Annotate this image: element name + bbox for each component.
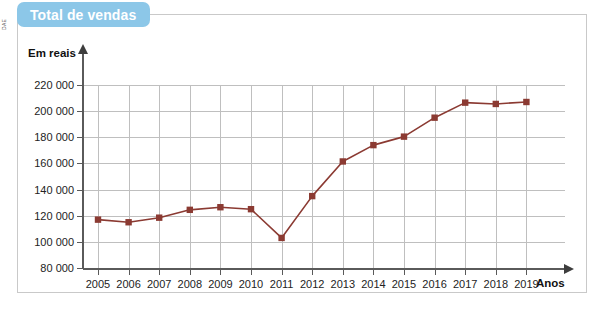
x-axis-tick [129, 269, 130, 275]
y-axis-tick-label: 140 000 [34, 184, 74, 196]
chart-title-banner: Total de vendas [17, 2, 150, 27]
y-axis-tick [77, 190, 84, 191]
y-axis-tick-label: 80 000 [40, 262, 74, 274]
x-axis-tick-label: 2019 [506, 278, 546, 290]
y-axis-tick-label: 180 000 [34, 131, 74, 143]
x-axis-tick [159, 269, 160, 275]
y-axis-tick-label-wrap: 200 000 [0, 105, 74, 117]
x-axis-tick [343, 269, 344, 275]
x-axis-tick [190, 269, 191, 275]
data-point-marker: 2014: 174000 [370, 142, 376, 148]
x-axis-tick [98, 269, 99, 275]
x-axis-tick [496, 269, 497, 275]
bottom-cropped-text [17, 300, 587, 309]
y-axis-tick [77, 216, 84, 217]
data-point-marker: 2006: 115000 [125, 219, 131, 225]
y-axis-tick-label-wrap: 160 000 [0, 157, 74, 169]
y-axis-tick-label: 160 000 [34, 157, 74, 169]
y-axis-tick [77, 85, 84, 86]
x-axis-tick [312, 269, 313, 275]
series-markers: 2005: 1170002006: 1150002007: 1185002008… [95, 99, 530, 241]
data-point-marker: 2011: 103000 [278, 235, 284, 241]
y-axis-tick-label-wrap: 100 000 [0, 236, 74, 248]
y-axis-tick-label: 220 000 [34, 79, 74, 91]
x-axis-tick [435, 269, 436, 275]
y-axis-tick-label-wrap: 80 000 [0, 262, 74, 274]
data-point-marker: 2016: 195000 [431, 114, 437, 120]
data-point-marker: 2019: 207000 [523, 99, 529, 105]
y-axis-tick [77, 268, 84, 269]
y-axis-tick-label-wrap: 220 000 [0, 79, 74, 91]
chart-figure: DAE Total de vendas Em reais Anos 2005: … [0, 0, 594, 309]
y-axis-tick-label-wrap: 120 000 [0, 210, 74, 222]
y-axis-tick-label: 100 000 [34, 236, 74, 248]
x-axis-tick [404, 269, 405, 275]
data-point-marker: 2018: 205500 [493, 101, 499, 107]
data-point-marker: 2005: 117000 [95, 216, 101, 222]
x-axis-tick [373, 269, 374, 275]
y-axis-tick-label: 200 000 [34, 105, 74, 117]
data-point-marker: 2009: 126500 [217, 204, 223, 210]
data-point-marker: 2008: 124500 [187, 207, 193, 213]
y-axis-tick-label-wrap: 180 000 [0, 131, 74, 143]
data-point-marker: 2012: 135000 [309, 193, 315, 199]
y-axis-tick [77, 137, 84, 138]
data-point-marker: 2017: 206500 [462, 99, 468, 105]
x-axis-tick [251, 269, 252, 275]
x-axis-tick [220, 269, 221, 275]
data-point-marker: 2013: 161500 [340, 158, 346, 164]
y-axis-tick-label-wrap: 140 000 [0, 184, 74, 196]
data-point-marker: 2010: 125000 [248, 206, 254, 212]
data-point-marker: 2015: 180500 [401, 133, 407, 139]
x-axis-tick [526, 269, 527, 275]
x-axis-tick [282, 269, 283, 275]
series-layer: 2005: 1170002006: 1150002007: 1185002008… [0, 0, 594, 309]
y-axis-tick-label: 120 000 [34, 210, 74, 222]
y-axis-tick [77, 111, 84, 112]
chart-title: Total de vendas [30, 7, 136, 23]
y-axis-tick [77, 242, 84, 243]
data-point-marker: 2007: 118500 [156, 214, 162, 220]
y-axis-tick [77, 163, 84, 164]
x-axis-tick [465, 269, 466, 275]
